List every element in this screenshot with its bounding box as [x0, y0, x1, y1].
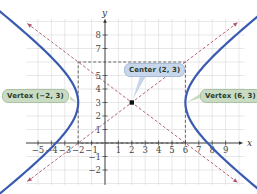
- points: [70, 76, 203, 105]
- svg-text:1: 1: [96, 125, 101, 135]
- svg-text:5: 5: [96, 71, 101, 81]
- svg-text:2: 2: [129, 145, 134, 155]
- svg-text:x: x: [247, 138, 252, 148]
- svg-text:3: 3: [96, 98, 101, 108]
- center-point: [130, 100, 134, 104]
- vertex-left-label: Vertex (−2, 3): [2, 89, 69, 103]
- svg-text:−3: −3: [59, 145, 72, 155]
- svg-text:8: 8: [96, 30, 101, 40]
- svg-text:3: 3: [142, 145, 147, 155]
- svg-text:y: y: [101, 8, 108, 18]
- svg-text:1: 1: [116, 145, 121, 155]
- svg-text:5: 5: [169, 145, 174, 155]
- svg-text:6: 6: [183, 145, 188, 155]
- svg-text:−5: −5: [32, 145, 45, 155]
- svg-text:−2: −2: [72, 145, 85, 155]
- svg-text:4: 4: [156, 145, 161, 155]
- center-label: Center (2, 3): [124, 63, 185, 77]
- svg-text:−2: −2: [88, 165, 101, 175]
- svg-text:7: 7: [96, 44, 101, 54]
- svg-text:2: 2: [96, 111, 101, 121]
- svg-text:−1: −1: [88, 152, 101, 162]
- vertex-right-label: Vertex (6, 3): [200, 89, 257, 103]
- svg-text:4: 4: [96, 84, 101, 94]
- svg-text:9: 9: [223, 145, 228, 155]
- svg-text:7: 7: [196, 145, 201, 155]
